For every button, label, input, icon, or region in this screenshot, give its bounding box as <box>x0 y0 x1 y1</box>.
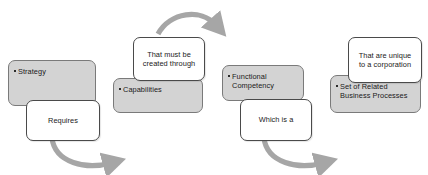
node-that-must-be-created-through[interactable]: That must be created through <box>133 37 205 81</box>
node-which-is-a-label: Which is a <box>253 115 300 124</box>
diagram-canvas: Strategy Requires Capabilities That must… <box>0 0 428 175</box>
arrow-capabilities-to-competency <box>158 14 216 34</box>
bullet-icon <box>228 75 230 77</box>
arrow-strategy-to-capabilities <box>52 138 111 166</box>
node-requires[interactable]: Requires <box>26 100 100 141</box>
node-strategy-label: Strategy <box>9 61 52 76</box>
node-that-are-unique-to-a-corporation[interactable]: That are unique to a corporation <box>348 37 422 83</box>
node-capabilities-label: Capabilities <box>114 79 168 94</box>
bullet-icon <box>119 88 121 90</box>
bullet-icon <box>14 70 16 72</box>
node-that-are-unique-to-a-corporation-label: That are unique to a corporation <box>353 51 418 69</box>
node-which-is-a[interactable]: Which is a <box>240 99 312 141</box>
bullet-icon <box>336 85 338 87</box>
node-functional-competency[interactable]: Functional Competency <box>222 65 304 101</box>
node-that-must-be-created-through-label: That must be created through <box>137 50 202 68</box>
arrow-competency-to-processes <box>264 138 323 166</box>
node-capabilities[interactable]: Capabilities <box>113 78 203 113</box>
node-functional-competency-label: Functional Competency <box>223 66 280 90</box>
node-requires-label: Requires <box>42 116 84 125</box>
